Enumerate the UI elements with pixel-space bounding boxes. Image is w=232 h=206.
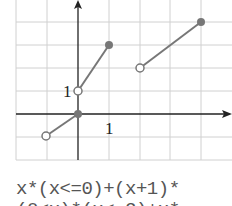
open-point bbox=[42, 132, 50, 140]
x-tick-label: 1 bbox=[105, 119, 114, 138]
filled-point bbox=[197, 18, 205, 26]
open-point bbox=[74, 87, 82, 95]
piecewise-graph: 1 1 bbox=[0, 0, 232, 170]
formula-line-1: x*(x<=0)+(x+1)* bbox=[16, 178, 180, 200]
filled-point bbox=[74, 110, 82, 118]
filled-point bbox=[105, 41, 113, 49]
y-tick-label: 1 bbox=[63, 82, 72, 101]
formula-line-2: (0<x)*(x<=2)+x* bbox=[16, 199, 180, 206]
open-point bbox=[136, 64, 144, 72]
segments bbox=[46, 22, 201, 136]
